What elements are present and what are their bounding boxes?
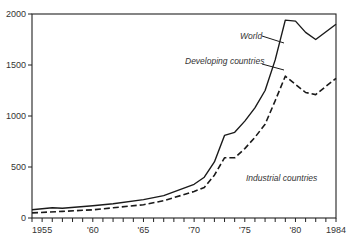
y-tick-label: 0: [21, 213, 26, 223]
x-tick-label: 1955: [32, 225, 52, 235]
y-tick-label: 1500: [6, 60, 26, 70]
y-tick-label: 2000: [6, 9, 26, 19]
developing-countries-label: Developing countries: [185, 56, 265, 66]
x-tick-label: '80: [290, 225, 302, 235]
x-tick-label: '75: [239, 225, 251, 235]
line-chart: 0500100015002000 1955'60'65'70'75'801984…: [0, 0, 348, 242]
world-label: World: [240, 31, 262, 41]
industrial-countries-label: Industrial countries: [246, 173, 318, 183]
x-tick-label: '65: [138, 225, 150, 235]
series-lines: [32, 20, 336, 213]
x-axis: 1955'60'65'70'75'801984: [32, 218, 346, 235]
industrial-countries-line: [32, 76, 336, 213]
x-tick-label: 1984: [326, 225, 346, 235]
x-tick-label: '60: [87, 225, 99, 235]
y-tick-label: 500: [11, 162, 26, 172]
y-axis: 0500100015002000: [6, 9, 32, 223]
series-annotations: WorldDeveloping countriesIndustrial coun…: [185, 31, 318, 183]
x-tick-label: '70: [188, 225, 200, 235]
y-tick-label: 1000: [6, 111, 26, 121]
